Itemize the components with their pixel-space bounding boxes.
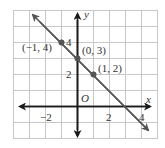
point-label-neg1-4: (−1, 4) xyxy=(22,41,52,54)
y-tick-2: 2 xyxy=(66,68,72,80)
point-label-1-2: (1, 2) xyxy=(98,62,122,75)
point-0-3 xyxy=(75,56,81,62)
coordinate-graph: (−1, 4) (0, 3) (1, 2) 4 2 −2 2 4 O x y xyxy=(0,0,165,148)
point-neg1-4 xyxy=(59,40,65,46)
x-tick-neg2: −2 xyxy=(40,111,52,123)
x-tick-4: 4 xyxy=(139,111,145,123)
x-axis-label: x xyxy=(145,93,151,105)
point-1-2 xyxy=(91,72,97,78)
point-label-0-3: (0, 3) xyxy=(82,44,106,57)
y-tick-4: 4 xyxy=(66,36,72,48)
x-tick-2: 2 xyxy=(106,111,112,123)
origin-label: O xyxy=(81,92,89,104)
y-axis-label: y xyxy=(83,8,89,20)
